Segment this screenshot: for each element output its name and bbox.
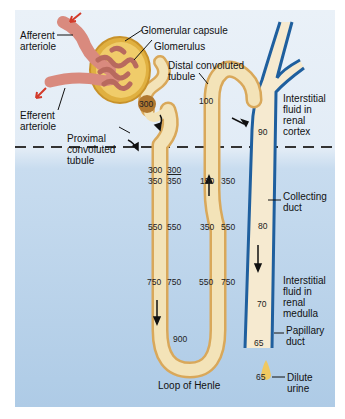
label-glomerular-capsule: Glomerular capsule <box>141 25 228 36</box>
osm-capsule-exit: 300 <box>139 100 153 109</box>
osm-ascending-top-fluid: 350 <box>221 177 235 186</box>
leader-efferent <box>58 88 65 110</box>
osm-descending-mid-tubule: 550 <box>148 223 162 232</box>
osm-papillary-duct: 65 <box>254 339 263 348</box>
osm-descending-low-fluid: 750 <box>167 278 181 287</box>
label-efferent-arteriole: Efferent arteriole <box>20 110 56 132</box>
osm-collecting-cortex: 90 <box>258 128 267 137</box>
osm-dct: 100 <box>199 97 213 106</box>
osm-descending-top-tubule: 350 <box>148 177 162 186</box>
label-loop-of-henle: Loop of Henle <box>158 380 220 391</box>
osm-urine: 65 <box>256 373 265 382</box>
osm-descending-top-fluid: 350 <box>167 177 181 186</box>
osm-ascending-top-tubule: 150 <box>200 177 214 186</box>
osm-descending-low-tubule: 750 <box>147 278 161 287</box>
label-dilute-urine: Dilute urine <box>287 372 313 394</box>
label-collecting-duct: Collecting duct <box>283 191 327 213</box>
osm-loop-bottom: 900 <box>173 335 187 344</box>
label-papillary-duct: Papillary duct <box>286 325 324 347</box>
label-glomerulus: Glomerulus <box>154 41 205 52</box>
osm-interstitial-boundary: 300 <box>167 166 181 175</box>
efferent-flow-arrow-icon <box>36 88 46 98</box>
label-distal-convoluted-tubule: Distal convoluted tubule <box>168 60 244 82</box>
osm-collecting-upper-medulla: 80 <box>258 222 267 231</box>
osm-ascending-low-fluid: 750 <box>221 278 235 287</box>
label-interstitial-fluid-cortex: Interstitial fluid in renal cortex <box>283 93 326 137</box>
osm-pct-end: 300 <box>148 166 162 175</box>
osm-collecting-lower-medulla: 70 <box>257 300 266 309</box>
label-interstitial-fluid-medulla: Interstitial fluid in renal medulla <box>283 275 326 319</box>
leader-proximal <box>119 127 130 133</box>
osm-descending-mid-fluid: 550 <box>167 223 181 232</box>
nephron-tubule <box>145 62 254 370</box>
osm-ascending-mid-fluid: 550 <box>221 223 235 232</box>
label-afferent-arteriole: Afferent arteriole <box>20 30 56 52</box>
osm-ascending-mid-tubule: 350 <box>200 223 214 232</box>
afferent-flow-arrow-icon <box>70 13 81 22</box>
osm-ascending-low-tubule: 550 <box>199 278 213 287</box>
label-proximal-convoluted-tubule: Proximal convoluted tubule <box>67 133 115 166</box>
arrowhead-icon <box>155 123 161 130</box>
